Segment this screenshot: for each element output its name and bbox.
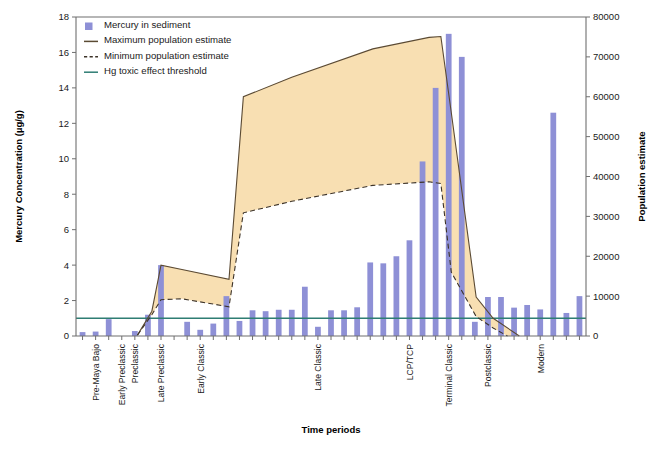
x-axis-title: Time periods (302, 424, 361, 435)
legend-label: Minimum population estimate (104, 50, 229, 61)
y2-tick-label: 80000 (593, 11, 619, 22)
mercury-population-chart: 0246810121416180100002000030000400005000… (0, 0, 659, 450)
bar (263, 311, 269, 336)
bar (498, 297, 504, 336)
bar (407, 240, 413, 336)
x-category-label: Postclassic (483, 343, 493, 387)
y-tick-label: 4 (64, 260, 69, 271)
bar (184, 322, 190, 336)
bar (197, 330, 203, 336)
bar (132, 331, 138, 336)
y-axis-left-ticks: 024681012141618 (58, 11, 76, 341)
y-tick-label: 6 (64, 224, 69, 235)
bar (106, 319, 112, 336)
x-category-label: Pre-Maya Bajo (91, 344, 101, 401)
bar (354, 307, 360, 336)
bar (93, 332, 99, 336)
bar (80, 332, 86, 336)
bar (564, 313, 570, 336)
bar (367, 262, 373, 336)
legend-label: Mercury in sediment (104, 19, 191, 30)
bar (224, 296, 230, 336)
y2-tick-label: 0 (593, 330, 598, 341)
y-tick-label: 18 (58, 11, 69, 22)
bar (537, 309, 543, 336)
legend: Mercury in sedimentMaximum population es… (84, 19, 231, 76)
x-category-label: Terminal Classic (444, 343, 454, 406)
x-axis-category-labels: Pre-Maya BajoEarly PreclassicPreclassicL… (91, 343, 546, 406)
y2-tick-label: 10000 (593, 291, 619, 302)
bar (524, 305, 530, 336)
legend-label: Maximum population estimate (104, 34, 231, 45)
bar (302, 287, 308, 336)
bar (394, 256, 400, 336)
bar (433, 88, 439, 336)
y2-tick-label: 40000 (593, 171, 619, 182)
x-category-label: Early Classic (196, 343, 206, 393)
y-tick-label: 14 (58, 82, 69, 93)
y2-axis-title: Population estimate (636, 131, 647, 221)
bar (328, 310, 334, 336)
bar (550, 113, 556, 336)
x-axis-ticks (83, 336, 580, 340)
x-category-label: Late Preclassic (156, 343, 166, 402)
y-tick-label: 10 (58, 153, 69, 164)
y2-tick-label: 30000 (593, 211, 619, 222)
x-category-label: Early Preclassic (117, 343, 127, 405)
x-category-label: Preclassic (130, 343, 140, 383)
bar (577, 296, 583, 336)
y2-tick-label: 20000 (593, 251, 619, 262)
x-category-label: LCP/TCP (405, 344, 415, 381)
y-tick-label: 8 (64, 189, 69, 200)
x-category-label: Late Classic (313, 343, 323, 391)
bar (341, 310, 347, 336)
bar (472, 322, 478, 336)
y-tick-label: 16 (58, 47, 69, 58)
bar (420, 161, 426, 336)
bar (250, 310, 256, 336)
legend-swatch-square (85, 23, 93, 31)
y2-tick-label: 70000 (593, 51, 619, 62)
chart-figure: 0246810121416180100002000030000400005000… (0, 0, 659, 450)
y2-tick-label: 60000 (593, 91, 619, 102)
bar (315, 327, 321, 336)
bar (210, 324, 216, 336)
y2-tick-label: 50000 (593, 131, 619, 142)
y-tick-label: 12 (58, 118, 69, 129)
y-tick-label: 2 (64, 295, 69, 306)
bar (237, 321, 243, 336)
y-tick-label: 0 (64, 330, 69, 341)
bar (380, 263, 386, 336)
legend-label: Hg toxic effect threshold (104, 65, 207, 76)
y-axis-title: Mercury Concentration (µg/g) (13, 110, 24, 243)
bar (276, 310, 282, 336)
bar (485, 297, 491, 336)
bar (289, 310, 295, 336)
x-category-label: Modern (536, 344, 546, 373)
y-axis-right-ticks: 0100002000030000400005000060000700008000… (586, 11, 619, 341)
